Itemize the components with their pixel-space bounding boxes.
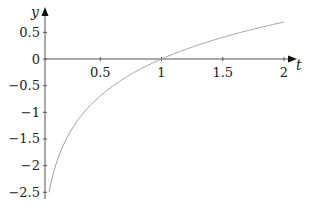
y-axis-label: y xyxy=(30,4,40,20)
axes xyxy=(42,7,298,199)
y-tick-label: −2 xyxy=(21,158,40,173)
x-tick-label: 1 xyxy=(157,65,165,80)
y-tick-label: −1 xyxy=(21,105,40,120)
series-line-ln-t xyxy=(49,22,284,192)
y-tick-label: 0.5 xyxy=(19,25,40,40)
x-tick-label: 0.5 xyxy=(90,65,111,80)
ticks: 0.511.520.50−0.5−1−1.5−2−2.5 xyxy=(8,25,288,200)
y-tick-label: −1.5 xyxy=(8,131,40,146)
x-tick-label: 1.5 xyxy=(212,65,233,80)
curves xyxy=(49,22,284,192)
x-axis-label: t xyxy=(296,57,302,73)
chart: 0.511.520.50−0.5−1−1.5−2−2.5 t y xyxy=(0,0,314,209)
y-tick-label: −0.5 xyxy=(8,78,40,93)
y-tick-label: −2.5 xyxy=(8,185,40,200)
x-tick-label: 2 xyxy=(280,65,288,80)
y-axis-arrow-icon xyxy=(42,7,49,16)
y-tick-label: 0 xyxy=(32,52,40,67)
